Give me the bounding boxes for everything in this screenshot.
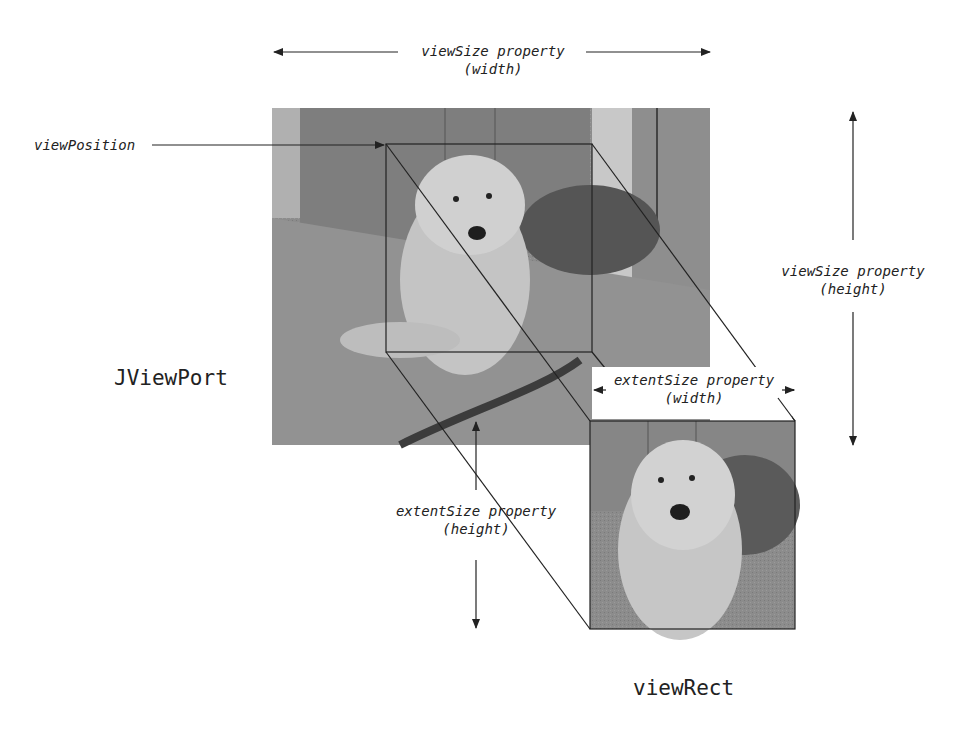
view-size-width-line1: viewSize property bbox=[400, 42, 586, 60]
extent-size-width-line1: extentSize property bbox=[604, 371, 784, 389]
view-size-width-line2: (width) bbox=[400, 60, 586, 78]
extent-size-width-label: extentSize property (width) bbox=[604, 371, 784, 407]
view-position-label: viewPosition bbox=[34, 136, 135, 154]
extent-size-height-line2: (height) bbox=[384, 520, 568, 538]
extent-image bbox=[590, 421, 800, 640]
view-size-height-line2: (height) bbox=[770, 280, 936, 298]
view-rect-title: viewRect bbox=[633, 676, 734, 700]
view-size-height-line1: viewSize property bbox=[770, 262, 936, 280]
view-size-width-label: viewSize property (width) bbox=[400, 42, 586, 78]
jviewport-title: JViewPort bbox=[114, 366, 228, 390]
view-size-height-label: viewSize property (height) bbox=[770, 262, 936, 298]
extent-size-height-label: extentSize property (height) bbox=[384, 502, 568, 538]
extent-size-width-line2: (width) bbox=[604, 389, 784, 407]
extent-size-height-line1: extentSize property bbox=[384, 502, 568, 520]
diagram-canvas bbox=[0, 0, 959, 730]
